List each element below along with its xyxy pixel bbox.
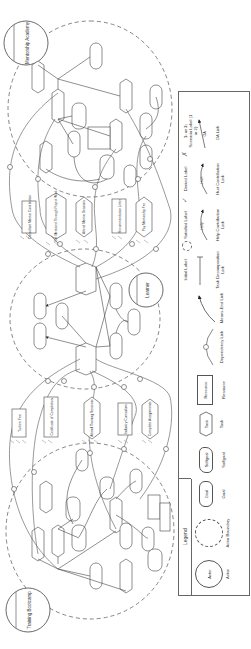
goal-shape-icon: Goal — [199, 481, 213, 507]
dependums-bootcamp-learner: Tuition Fee Certificate of Completion At… — [12, 397, 158, 439]
rotated-diagram-canvas: Training Bootcamp Learner Mentorship Aca… — [0, 0, 251, 649]
legend-item-actor-boundary: Actor Boundary — [195, 513, 230, 553]
help-contribution-link-icon: Help — [195, 208, 209, 242]
dependum-resource: Industry Curriculum — [118, 403, 132, 435]
dependum-resource: Certificate of Completion — [44, 397, 58, 437]
actor-training-bootcamp: Training Bootcamp — [6, 588, 50, 632]
svg-text:OA: OA — [203, 131, 207, 137]
denied-x-icon: ✗ — [181, 151, 189, 157]
legend-tab-divider — [179, 478, 191, 479]
svg-text:Hurt: Hurt — [200, 177, 204, 184]
dependum-resource: Recommendation Letter — [112, 198, 126, 233]
legend-item-satisfied-label: Satisfied Label — [181, 205, 188, 245]
actor-mentorship-academy: Mentorship Academy — [4, 21, 48, 65]
legend-item-goal: Goal Goal — [199, 479, 226, 509]
task-decomposition-link-icon — [195, 253, 205, 287]
hurt-contribution-link-icon: Hurt — [195, 162, 209, 196]
bootcamp-internal-elements — [32, 449, 170, 593]
actor-boundary-shape-icon — [195, 519, 223, 547]
dependums-learner-academy: Consultant Mentor Contribution Get Mento… — [22, 190, 152, 242]
legend-item-task: Task Task — [199, 409, 224, 439]
legend-item-resource: Resource Resource — [197, 373, 226, 407]
actor-label: Mentorship Academy — [25, 21, 30, 64]
legend-item-hurt-contribution-link: Hurt Hurt Contribution Link — [195, 159, 225, 199]
dependum-task: Get Mentored Through Project Work — [46, 190, 66, 242]
legend-title: Legend — [182, 528, 188, 545]
legend-title-strip: Legend — [179, 479, 192, 595]
actor-learner: Learner — [129, 273, 163, 307]
svg-text:Recommendation Letter: Recommendation Letter — [118, 198, 122, 233]
academy-internal-elements — [32, 43, 162, 187]
legend-item-actor: Actor Actor — [195, 557, 230, 591]
legend-item-dependency-link: Dependency Link — [195, 327, 224, 367]
legend-item-help-contribution-link: Help Help Contribution Link — [195, 205, 225, 245]
dependency-link-icon — [195, 327, 217, 367]
actor-label: Learner — [145, 282, 150, 298]
svg-text:Attend Training Sessions: Attend Training Sessions — [90, 399, 94, 437]
legend-item-task-decomposition-link: Task Decomposition Link — [195, 251, 225, 289]
actor-shape-icon: Actor — [195, 560, 223, 588]
legend-item-initial-label: Initial Label — [181, 251, 188, 289]
means-end-link-icon — [195, 292, 217, 324]
svg-text:Pay Mentorship Fee: Pay Mentorship Fee — [142, 203, 146, 232]
dependum-task: Complete Assignments — [142, 399, 158, 439]
learner-internal-elements — [34, 263, 140, 375]
svg-text:Task: Task — [204, 420, 209, 428]
dependum-task: Attend Training Sessions — [84, 397, 100, 439]
dependum-task: Pay Mentorship Fee — [136, 197, 152, 237]
svg-text:Complete Assignments: Complete Assignments — [148, 401, 152, 436]
task-shape-icon: Task — [199, 411, 213, 437]
svg-text:Attend Mentor Sessions: Attend Mentor Sessions — [82, 200, 86, 234]
legend-item-means-end-link: Means-End Link — [195, 291, 224, 325]
dependum-resource: Tuition Fee — [12, 409, 26, 437]
dependum-task: Attend Mentor Sessions — [76, 197, 92, 237]
svg-text:Consultant Mentor Contribution: Consultant Mentor Contribution — [28, 195, 32, 239]
svg-text:Industry Curriculum: Industry Curriculum — [124, 404, 128, 434]
legend: Legend Actor Actor Actor Boundary Goal G… — [178, 91, 250, 596]
legend-item-scenario-label: 1: or 2: Scenario Label (1 or 2) — [181, 113, 198, 149]
legend-item-softgoal: Softgoal Softgoal — [199, 445, 226, 475]
svg-text:Help: Help — [200, 222, 204, 229]
dependum-resource: Consultant Mentor Contribution — [22, 195, 36, 239]
svg-text:Get Mentored Through Project W: Get Mentored Through Project Work — [54, 190, 58, 242]
softgoal-shape-icon: Softgoal — [199, 447, 213, 473]
actor-label: Training Bootcamp — [27, 591, 32, 629]
svg-text:Certificate of Completion: Certificate of Completion — [50, 398, 54, 435]
legend-item-denied-label: Denied Label — [181, 159, 188, 199]
legend-item-oa-link: OA OA Link — [195, 115, 220, 151]
resource-shape-icon: Resource — [197, 375, 213, 405]
svg-text:Tuition Fee: Tuition Fee — [18, 414, 22, 432]
